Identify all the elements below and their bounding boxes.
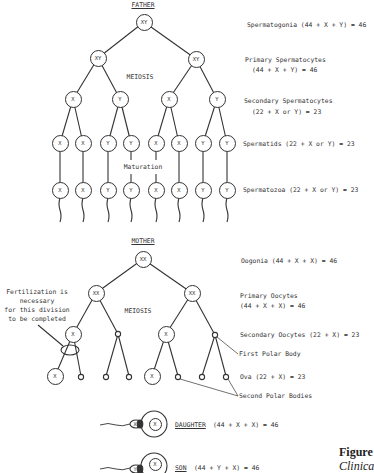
fertilization-note-line: to be completed (8, 315, 66, 323)
spermatozoa-label: Spermatozoa (22 + X or Y) = 23 (243, 186, 358, 194)
secondary-spermatocyte-node: Y (209, 91, 226, 108)
figure-caption-label: Figure (339, 445, 373, 460)
spermatozoon-node: X (52, 182, 69, 199)
primary-oocytes-formula: (44 + X + X) = 46 (240, 302, 305, 310)
spermatozoon-node: X (171, 182, 188, 199)
ova-label: Ova (22 + X) = 23 (240, 373, 305, 381)
secondary-spermatocyte-node: X (161, 91, 178, 108)
spermatids-label: Spermatids (22 + X or Y) = 23 (243, 140, 355, 148)
primary-spermatocyte-node: XY (188, 51, 205, 68)
father-title: FATHER (131, 1, 154, 9)
mother-title: MOTHER (131, 237, 154, 245)
maturation-label: Maturation (124, 163, 162, 171)
spermatid-node: Y (219, 135, 236, 152)
fertilization-note-line: for this division (4, 306, 69, 314)
figure-caption-subtitle: Clinica (339, 459, 374, 473)
spermatid-node: X (75, 135, 92, 152)
secondary-spermatocyte-node: X (65, 91, 82, 108)
primary-spermatocyte-node: XY (90, 50, 107, 67)
son-formula: (44 + Y + X) = 46 (194, 464, 259, 472)
father-meiosis-label: MEIOSIS (127, 73, 154, 81)
secondary-oocyte-node: X (65, 326, 82, 343)
primary-oocyte-node: XX (184, 285, 201, 302)
mother-meiosis-label: MEIOSIS (125, 307, 152, 315)
first-polar-body-label: First Polar Body (239, 350, 301, 358)
spermatozoon-node: X (148, 182, 165, 199)
spermatozoon-node: Y (100, 182, 117, 199)
secondary-spermatocyte-node: Y (112, 91, 129, 108)
spermatid-node: Y (123, 135, 140, 152)
spermatid-node: Y (100, 135, 117, 152)
son-egg-nucleus: X (149, 458, 162, 471)
secondary-oocytes-label: Secondary Oocytes (22 + X) = 23 (240, 331, 359, 339)
spermatid-node: Y (195, 135, 212, 152)
primary-spermatocytes-label: Primary Spermatocytes (245, 56, 326, 64)
daughter-sperm-chromosome: X (133, 420, 136, 428)
spermatogonia-label: Spermatogonia (44 + X + Y) = 46 (247, 21, 366, 29)
spermatozoon-node: Y (195, 182, 212, 199)
oogonia-label: Oogonia (44 + X + X) = 46 (241, 257, 337, 265)
daughter-egg-nucleus: X (149, 418, 162, 431)
spermatozoon-node: Y (123, 182, 140, 199)
spermatid-node: X (148, 135, 165, 152)
spermatid-node: X (52, 135, 69, 152)
spermatogonium-node: XY (136, 14, 153, 31)
primary-spermatocytes-formula: (44 + X + Y) = 46 (252, 66, 317, 74)
spermatozoon-node: X (75, 182, 92, 199)
son-label: SON (175, 464, 187, 472)
secondary-spermatocytes-formula: (22 + X or Y) = 23 (252, 108, 321, 116)
fertilization-note-line: necessary (20, 297, 55, 305)
secondary-oocyte-node: X (158, 326, 175, 343)
primary-oocytes-label: Primary Oocytes (240, 292, 298, 300)
spermatid-node: X (171, 135, 188, 152)
second-polar-bodies-label: Second Polar Bodies (239, 392, 312, 400)
daughter-formula: (44 + X + X) = 46 (213, 421, 278, 429)
daughter-label: DAUGHTER (175, 421, 206, 429)
primary-oocyte-node: XX (88, 285, 105, 302)
oogonium-node: XX (135, 251, 152, 268)
spermatozoon-node: Y (219, 182, 236, 199)
son-sperm-chromosome: Y (133, 465, 136, 473)
fertilization-note-line: Fertilization is (6, 288, 68, 296)
secondary-spermatocytes-label: Secondary Spermatocytes (244, 97, 333, 105)
ovum-node: X (47, 368, 64, 385)
ovum-node: X (144, 368, 161, 385)
